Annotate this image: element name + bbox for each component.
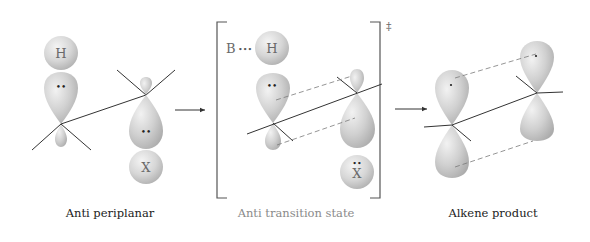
c1-p-orbital-lower-lobe (435, 125, 469, 178)
p-orbital-dot (535, 55, 537, 57)
panel-transition-state: ‡ B ••• H •• •• X (217, 20, 392, 198)
caption-alkene-product: Alkene product (448, 206, 537, 220)
c1-p-orbital-upper-lobe (435, 70, 469, 125)
c1-sp3-large-lobe (44, 72, 78, 124)
lone-pair-dots: •• (267, 81, 278, 91)
c2-substituent-bond-right (537, 92, 563, 93)
c2-sp3-small-lobe (140, 77, 152, 95)
panel-anti-periplanar: H •• •• X (32, 36, 175, 184)
c2-p-orbital-lower-lobe (520, 93, 554, 141)
base-label: B (226, 41, 236, 56)
caption-anti-periplanar: Anti periplanar (66, 206, 155, 220)
hydrogen-atom: H (255, 31, 289, 65)
hydrogen-label: H (55, 46, 66, 61)
caption-transition-state: Anti transition state (238, 206, 355, 220)
leaving-group-atom: X (129, 150, 163, 184)
double-dagger-symbol: ‡ (386, 20, 392, 33)
panel-alkene-product (424, 41, 563, 178)
leaving-group-label: X (141, 160, 151, 175)
leaving-group-atom: •• X (340, 155, 374, 189)
p-orbital-dot (450, 84, 452, 86)
hydrogen-atom: H (44, 36, 78, 70)
c1-small-lobe (265, 123, 281, 150)
c2-p-orbital-upper-lobe (520, 41, 554, 93)
hydrogen-label: H (266, 41, 277, 56)
leaving-group-label: X (352, 166, 362, 181)
c1-substituent-bond-left (424, 125, 452, 127)
c2-sp3-large-lobe (129, 95, 163, 149)
partial-bond-dots: ••• (238, 45, 252, 54)
lone-pair-dots: •• (141, 127, 152, 137)
c2-large-lobe (340, 93, 375, 148)
lone-pair-dots: •• (56, 82, 67, 92)
